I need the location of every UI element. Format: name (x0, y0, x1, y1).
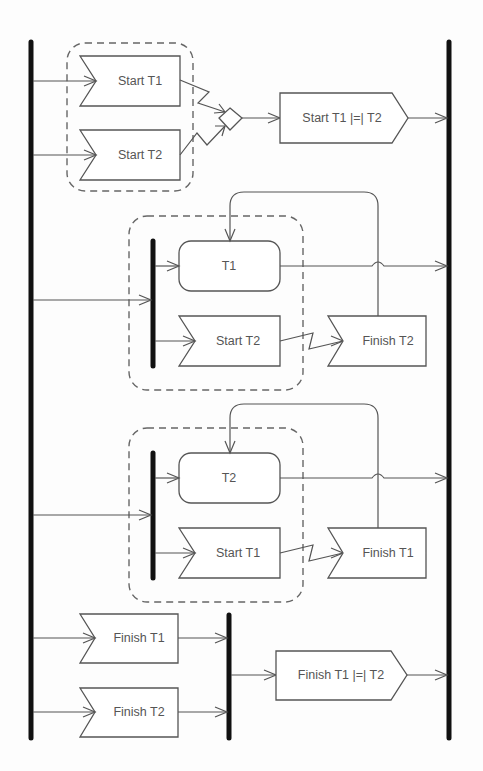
send-signal-start-t1-t2[interactable]: Start T1 |=| T2 (280, 93, 408, 143)
svg-text:T1: T1 (222, 259, 237, 273)
svg-text:Start T1: Start T1 (216, 546, 260, 560)
activity-diagram: Start T1 Start T2 Start T1 |=| T2 T1 Sta… (0, 0, 483, 771)
interrupt-edge-start-t1 (180, 80, 225, 112)
interrupt-edge-to-finish-t2 (280, 333, 343, 349)
svg-text:T2: T2 (222, 471, 237, 485)
svg-text:Finish T2: Finish T2 (362, 334, 413, 348)
action-t1[interactable]: T1 (179, 241, 280, 291)
interrupt-edge-to-finish-t1 (280, 545, 343, 561)
svg-text:Finish T2: Finish T2 (113, 705, 164, 719)
edge-t1-to-right-bar (280, 262, 447, 266)
svg-text:Finish T1 |=| T2: Finish T1 |=| T2 (298, 668, 384, 682)
receive-signal-finish-t1[interactable]: Finish T1 (328, 528, 426, 578)
svg-text:Start T1 |=| T2: Start T1 |=| T2 (302, 111, 381, 125)
receive-signal-finish-t2[interactable]: Finish T2 (328, 316, 426, 366)
action-t2[interactable]: T2 (179, 453, 280, 503)
svg-text:Start T2: Start T2 (216, 334, 260, 348)
edge-t2-to-right-bar (280, 474, 447, 478)
interrupt-edge-start-t2 (180, 126, 225, 155)
svg-text:Start T1: Start T1 (118, 74, 162, 88)
svg-text:Start T2: Start T2 (118, 148, 162, 162)
svg-text:Finish T1: Finish T1 (113, 631, 164, 645)
svg-text:Finish T1: Finish T1 (362, 546, 413, 560)
send-signal-finish-t1-t2[interactable]: Finish T1 |=| T2 (276, 651, 407, 700)
